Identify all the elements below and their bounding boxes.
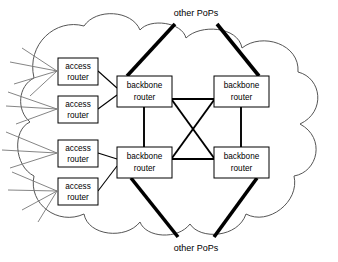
backbone-router-label-line2: router bbox=[231, 93, 253, 102]
diagram-canvas: accessrouteraccessrouteraccessrouteracce… bbox=[0, 0, 338, 262]
node-ar2[interactable]: accessrouter bbox=[58, 96, 98, 123]
access-router-label-line1: access bbox=[65, 100, 90, 109]
access-router-label-line2: router bbox=[67, 193, 89, 202]
node-br-br[interactable]: backbonerouter bbox=[214, 147, 269, 178]
access-router-label-line2: router bbox=[67, 73, 89, 82]
node-br-tr[interactable]: backbonerouter bbox=[214, 76, 269, 107]
trunk-top-right bbox=[217, 24, 259, 76]
node-ar3[interactable]: accessrouter bbox=[58, 140, 98, 167]
network-diagram-svg: accessrouteraccessrouteraccessrouteracce… bbox=[0, 0, 338, 262]
backbone-router-label-line2: router bbox=[231, 164, 253, 173]
link-ar3-brbl bbox=[98, 153, 117, 159]
backbone-router-label-line1: backbone bbox=[224, 81, 260, 90]
node-ar4[interactable]: accessrouter bbox=[58, 178, 98, 205]
access-router-label-line2: router bbox=[67, 111, 89, 120]
link-ar1-brtl bbox=[98, 71, 117, 88]
access-to-backbone-links bbox=[98, 71, 117, 191]
access-router-label-line1: access bbox=[65, 144, 90, 153]
backbone-router-label-line1: backbone bbox=[127, 152, 163, 161]
trunk-top-left bbox=[127, 24, 175, 76]
access-router-label-line1: access bbox=[65, 182, 90, 191]
link-ar2-brtl bbox=[98, 95, 117, 109]
backbone-router-label-line1: backbone bbox=[127, 81, 163, 90]
trunk-bottom-left bbox=[131, 178, 178, 237]
backbone-router-label-line1: backbone bbox=[224, 152, 260, 161]
node-ar1[interactable]: accessrouter bbox=[58, 58, 98, 85]
backbone-router-label-line2: router bbox=[134, 164, 156, 173]
access-routers-group: accessrouteraccessrouteraccessrouteracce… bbox=[58, 58, 98, 205]
access-router-label-line2: router bbox=[67, 155, 89, 164]
link-ar4-brbl bbox=[98, 166, 117, 191]
access-router-label-line1: access bbox=[65, 62, 90, 71]
node-br-tl[interactable]: backbonerouter bbox=[117, 76, 172, 107]
other-pops-top-label: other PoPs bbox=[174, 8, 219, 18]
backbone-router-label-line2: router bbox=[134, 93, 156, 102]
node-br-bl[interactable]: backbonerouter bbox=[117, 147, 172, 178]
other-pops-bottom-label: other PoPs bbox=[174, 243, 219, 253]
backbone-routers-group: backbonerouterbackbonerouterbackbonerout… bbox=[117, 76, 269, 178]
subscriber-lines-group bbox=[2, 48, 57, 222]
